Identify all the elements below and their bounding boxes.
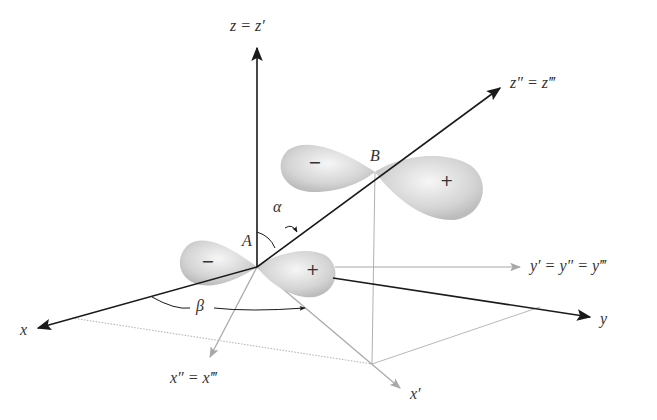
alpha-arc-arrow bbox=[285, 226, 297, 232]
z-double-prime-axis-label: z″ = z‴ bbox=[510, 75, 555, 91]
point-a-label: A bbox=[242, 233, 252, 249]
orbital-a-positive-sign: + bbox=[306, 262, 319, 278]
alpha-arc bbox=[257, 232, 275, 248]
y-prime-axis-label: y′ = y″ = y‴ bbox=[530, 258, 606, 274]
point-b-label: B bbox=[370, 148, 380, 164]
beta-arc-arrow bbox=[214, 308, 305, 310]
orbital-b-positive-sign: + bbox=[440, 173, 453, 189]
orbital-rotation-diagram bbox=[0, 0, 657, 420]
y-axis-label: y bbox=[600, 311, 607, 327]
orbital-b-positive-lobe bbox=[375, 156, 483, 220]
x-double-prime-axis-label: x″ = x‴ bbox=[170, 370, 216, 386]
orbital-b-negative-lobe bbox=[281, 145, 375, 192]
orbital-a-negative-sign: − bbox=[201, 254, 214, 270]
x-axis-label: x bbox=[20, 322, 27, 338]
x-axis bbox=[38, 267, 257, 328]
x-prime-axis-label: x′ bbox=[410, 386, 421, 402]
beta-arc bbox=[152, 297, 190, 308]
rotated-axes bbox=[210, 267, 520, 388]
orbital-b-negative-sign: − bbox=[308, 155, 321, 171]
beta-angle-label: β bbox=[196, 298, 204, 314]
z-axis-label: z = z′ bbox=[230, 18, 265, 34]
y-axis bbox=[333, 278, 590, 317]
alpha-angle-label: α bbox=[273, 199, 281, 215]
